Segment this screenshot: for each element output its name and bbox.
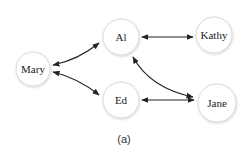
node-label-jane: Jane [207, 97, 227, 109]
node-label-kathy: Kathy [201, 29, 228, 41]
node-kathy: Kathy [196, 17, 232, 53]
node-label-ed: Ed [115, 94, 128, 106]
social-graph-diagram: Mary Al Kathy Ed Jane (a) [0, 0, 247, 153]
edge-al-jane [133, 57, 193, 97]
node-jane: Jane [198, 84, 236, 122]
figure-caption: (a) [117, 133, 130, 145]
node-ed: Ed [103, 82, 139, 118]
edge-mary-al [53, 43, 99, 65]
node-label-mary: Mary [21, 63, 45, 75]
node-al: Al [103, 19, 139, 55]
node-label-al: Al [116, 31, 127, 43]
edge-mary-ed [53, 72, 99, 95]
node-mary: Mary [16, 52, 50, 86]
